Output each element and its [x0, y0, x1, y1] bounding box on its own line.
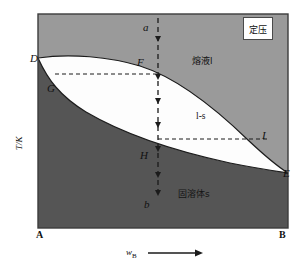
point-label-a-start: a	[143, 22, 149, 33]
point-label-h: H	[140, 150, 148, 161]
region-label-two-phase: l-s	[196, 112, 206, 122]
phase-diagram-figure: 定压 T/K wB A B D G F a H b I E 熔液l l-s 固溶…	[0, 0, 301, 272]
region-label-liquid: 熔液l	[192, 57, 213, 66]
point-label-f: F	[137, 57, 144, 68]
point-label-i: I	[262, 130, 266, 141]
constant-pressure-label: 定压	[249, 25, 267, 35]
region-label-solid: 固溶体s	[178, 190, 210, 199]
point-label-g: G	[47, 83, 55, 94]
point-label-b-end: b	[144, 199, 150, 210]
constant-pressure-box: 定压	[243, 17, 273, 40]
x-axis-arrow-icon	[148, 250, 203, 257]
corner-label-a: A	[36, 230, 43, 240]
x-axis-label: wB	[126, 247, 137, 260]
y-axis-label: T/K	[14, 136, 24, 150]
corner-label-b: B	[279, 230, 286, 240]
point-label-e: E	[283, 168, 290, 179]
x-axis-label-subscript: B	[132, 252, 137, 260]
point-label-d: D	[30, 53, 38, 64]
phase-diagram-svg	[0, 0, 301, 272]
